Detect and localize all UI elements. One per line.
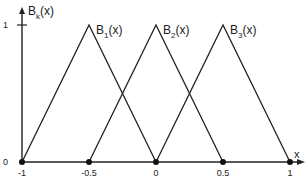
x-tick-label: -1: [18, 168, 26, 178]
x-axis-label: x: [294, 148, 300, 160]
x-tick-label: 0: [153, 168, 158, 178]
series-b1-line: [22, 25, 156, 162]
series-b2-label: B2(x): [163, 23, 189, 40]
knot-point: [287, 159, 293, 165]
x-tick-label: -0.5: [81, 168, 97, 178]
knot-point: [153, 159, 159, 165]
series-b1-label: B1(x): [96, 23, 122, 40]
knot-point: [220, 159, 226, 165]
knot-point: [19, 159, 25, 165]
knot-point: [86, 159, 92, 165]
x-tick-label: 1: [287, 168, 292, 178]
series-b3-line: [156, 25, 290, 162]
y-axis-label: Bk(x): [28, 4, 54, 21]
chart: Bk(x) 1 0 -1 -0.5 0 0.5 1 x B1(x) B2(x) …: [0, 0, 306, 178]
y-tick-label-0: 0: [3, 157, 8, 167]
y-tick-label-1: 1: [3, 20, 8, 30]
series-b2-line: [89, 25, 223, 162]
y-axis-arrow-icon: [19, 7, 25, 14]
x-tick-label: 0.5: [217, 168, 230, 178]
series-b3-label: B3(x): [230, 23, 256, 40]
